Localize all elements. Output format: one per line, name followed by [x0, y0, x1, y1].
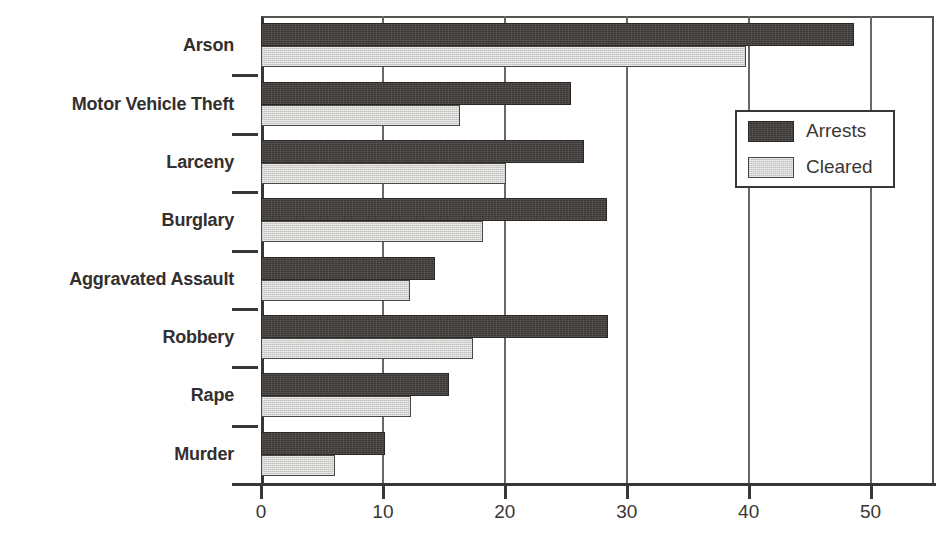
chart-legend: Arrests Cleared — [735, 110, 895, 188]
x-axis-tick-label: 40 — [719, 502, 779, 521]
x-axis-tick-label: 10 — [353, 502, 413, 521]
bar-cleared — [261, 221, 483, 242]
category-label: Aggravated Assault — [0, 270, 234, 288]
gridline — [748, 16, 750, 483]
bar-arrests — [261, 198, 607, 221]
legend-label-cleared: Cleared — [806, 154, 873, 180]
bar-arrests — [261, 257, 435, 280]
y-axis-tick — [232, 250, 258, 253]
bar-arrests — [261, 315, 608, 338]
bar-arrests — [261, 432, 385, 455]
bar-arrests — [261, 23, 854, 46]
category-label: Robbery — [0, 328, 234, 346]
bar-arrests — [261, 140, 584, 163]
category-label: Murder — [0, 445, 234, 463]
gridline — [626, 16, 628, 483]
legend-label-arrests: Arrests — [806, 118, 866, 144]
y-axis-tick — [232, 366, 258, 369]
y-axis-tick — [232, 191, 258, 194]
x-axis-tick-label: 20 — [475, 502, 535, 521]
bar-cleared — [261, 338, 473, 359]
y-axis-tick — [232, 425, 258, 428]
bar-cleared — [261, 46, 746, 67]
x-axis-tick-label: 30 — [597, 502, 657, 521]
x-axis-tick — [626, 483, 629, 499]
y-axis-tick — [232, 308, 258, 311]
y-axis-tick — [232, 133, 258, 136]
x-axis-tick — [382, 483, 385, 499]
x-axis-tick-label: 50 — [841, 502, 901, 521]
y-axis-tick — [232, 74, 258, 77]
bar-cleared — [261, 455, 335, 476]
bar-cleared — [261, 280, 410, 301]
gridline — [870, 16, 872, 483]
legend-swatch-arrests — [748, 121, 794, 142]
category-label: Burglary — [0, 211, 234, 229]
x-axis-line — [232, 483, 936, 486]
legend-swatch-cleared — [748, 157, 794, 178]
category-label: Arson — [0, 36, 234, 54]
category-label: Motor Vehicle Theft — [0, 95, 234, 113]
bar-cleared — [261, 163, 506, 184]
bar-arrests — [261, 373, 449, 396]
x-axis-tick — [870, 483, 873, 499]
category-label: Larceny — [0, 153, 234, 171]
x-axis-tick — [748, 483, 751, 499]
category-label: Rape — [0, 386, 234, 404]
bar-chart: MurderRapeRobberyAggravated AssaultBurgl… — [0, 0, 944, 551]
x-axis-tick-label: 0 — [231, 502, 291, 521]
x-axis-tick — [504, 483, 507, 499]
bar-arrests — [261, 82, 571, 105]
bar-cleared — [261, 105, 460, 126]
x-axis-tick — [260, 483, 263, 499]
y-axis-category-labels: MurderRapeRobberyAggravated AssaultBurgl… — [0, 16, 246, 483]
bar-cleared — [261, 396, 411, 417]
